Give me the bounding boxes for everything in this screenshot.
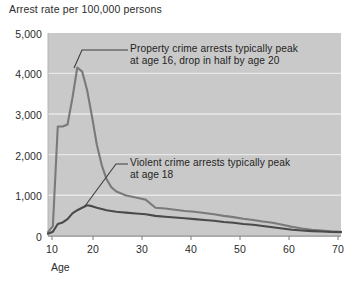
annotation-violent-peak: Violent crime arrests typically peak at … — [130, 157, 290, 182]
annotation-property-line1: Property crime arrests typically peak — [130, 43, 298, 55]
annotation-property-line2: at age 16, drop in half by age 20 — [130, 55, 298, 67]
annotation-violent-line1: Violent crime arrests typically peak — [130, 157, 290, 169]
annotation-violent-line2: at age 18 — [130, 169, 290, 181]
annotation-property-peak: Property crime arrests typically peak at… — [130, 43, 298, 68]
arrest-rate-chart: Arrest rate per 100,000 persons 5,000 4,… — [0, 0, 356, 286]
